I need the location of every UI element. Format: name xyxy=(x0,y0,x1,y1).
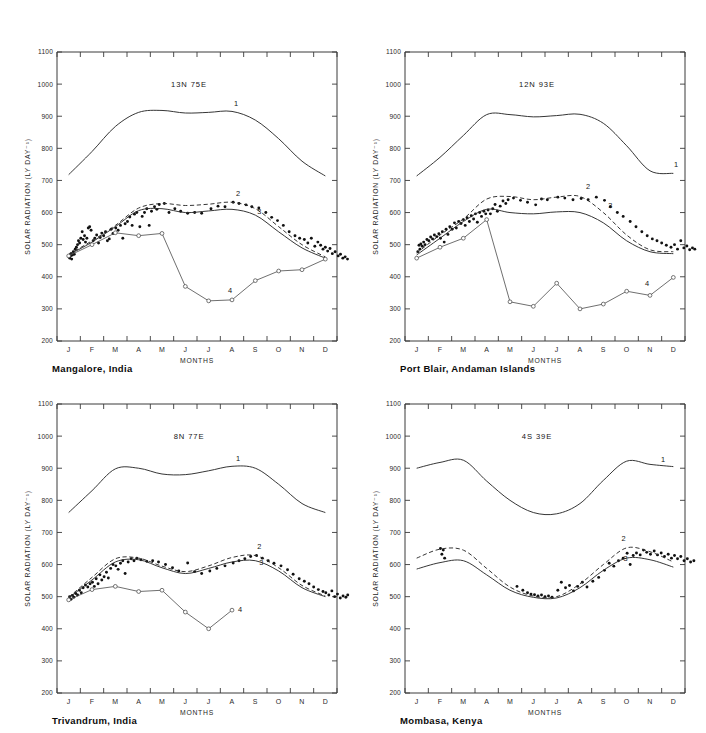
observation-point xyxy=(560,581,563,584)
curve-4-marker xyxy=(485,218,489,222)
curve-4-marker xyxy=(183,285,187,289)
chart-panel-mombasa: 20030040050060070080090010001100JFMAMJJA… xyxy=(348,352,700,733)
observation-point xyxy=(313,245,316,248)
curve-label-3: 3 xyxy=(259,558,263,567)
curve-4-marker xyxy=(230,608,234,612)
y-tick-label: 1000 xyxy=(38,433,54,440)
y-tick-label: 300 xyxy=(389,657,401,664)
observation-point xyxy=(286,568,289,571)
x-axis-title: MONTHS xyxy=(528,709,562,716)
observation-point xyxy=(148,224,151,227)
curve-label-3: 3 xyxy=(257,207,261,216)
observation-point xyxy=(344,596,347,599)
curve-label-3: 3 xyxy=(608,201,612,210)
observation-point xyxy=(494,203,497,206)
curve-4-marker xyxy=(137,234,141,238)
observation-point xyxy=(131,224,134,227)
observation-point xyxy=(533,593,536,596)
observation-point xyxy=(440,553,443,556)
observation-point xyxy=(83,234,86,237)
y-tick-label: 600 xyxy=(41,561,53,568)
observation-point xyxy=(100,232,103,235)
observation-point xyxy=(168,211,171,214)
x-axis-title: MONTHS xyxy=(180,709,214,716)
observation-point xyxy=(484,212,487,215)
observation-point xyxy=(141,215,144,218)
plot-frame xyxy=(57,404,337,693)
observation-point xyxy=(119,224,122,227)
curve-label-4: 4 xyxy=(238,605,242,614)
observation-point xyxy=(667,553,670,556)
curve-label-1: 1 xyxy=(674,160,678,169)
observation-point xyxy=(310,237,313,240)
y-tick-label: 600 xyxy=(389,561,401,568)
x-tick-label: J xyxy=(415,698,419,705)
curve-4-marker xyxy=(323,257,327,261)
x-tick-label: A xyxy=(230,698,235,705)
observation-point xyxy=(109,567,112,570)
y-tick-label: 500 xyxy=(389,241,401,248)
y-tick-label: 400 xyxy=(389,625,401,632)
observation-point xyxy=(472,218,475,221)
observation-point xyxy=(103,575,106,578)
curve-2 xyxy=(417,547,674,598)
observation-point xyxy=(316,241,319,244)
y-tick-label: 200 xyxy=(389,689,401,696)
curve-label-4: 4 xyxy=(645,279,649,288)
observation-point xyxy=(330,589,333,592)
observation-point xyxy=(292,573,295,576)
observation-point xyxy=(324,246,327,249)
curve-1 xyxy=(417,113,674,176)
x-tick-label: F xyxy=(438,698,443,705)
observation-point xyxy=(339,597,342,600)
observation-point xyxy=(489,212,492,215)
observation-point xyxy=(298,577,301,580)
observation-point xyxy=(164,563,167,566)
observation-point xyxy=(635,552,638,555)
y-tick-label: 400 xyxy=(41,273,53,280)
chart-svg-trivandrum: 20030040050060070080090010001100JFMAMJJA… xyxy=(0,352,352,733)
curve-label-3: 3 xyxy=(624,554,628,563)
y-tick-label: 800 xyxy=(41,145,53,152)
y-axis-title: SOLAR RADIATION (LY DAY⁻¹) xyxy=(372,138,380,255)
observation-point xyxy=(526,201,529,204)
curve-4 xyxy=(69,586,232,628)
curve-4-marker xyxy=(137,590,141,594)
y-axis-title: SOLAR RADIATION (LY DAY⁻¹) xyxy=(372,490,380,607)
x-tick-label: A xyxy=(578,698,583,705)
observation-point xyxy=(108,237,111,240)
panel-caption-trivandrum: Trivandrum, India xyxy=(52,715,137,726)
observation-point xyxy=(656,239,659,242)
observation-point xyxy=(157,561,160,564)
observation-point xyxy=(81,230,84,233)
panel-coordinates-title: 4S 39E xyxy=(522,432,552,441)
observation-point xyxy=(107,577,110,580)
observation-point xyxy=(603,199,606,202)
curve-4-marker xyxy=(160,588,164,592)
observation-point xyxy=(117,568,120,571)
observation-point xyxy=(682,246,685,249)
observation-point xyxy=(591,580,594,583)
x-tick-label: A xyxy=(136,698,141,705)
curve-3 xyxy=(69,208,326,258)
observation-point xyxy=(119,562,122,565)
observation-point xyxy=(200,572,203,575)
observation-point xyxy=(210,207,213,210)
observation-point xyxy=(629,220,632,223)
observation-point xyxy=(280,564,283,567)
observation-point xyxy=(308,582,311,585)
observation-point xyxy=(612,565,615,568)
curve-label-1: 1 xyxy=(661,455,665,464)
y-tick-label: 800 xyxy=(41,497,53,504)
observation-point xyxy=(342,595,345,598)
curve-label-2: 2 xyxy=(622,534,626,543)
observation-point xyxy=(303,238,306,241)
y-tick-label: 700 xyxy=(389,529,401,536)
curve-4-marker xyxy=(461,236,465,240)
x-tick-label: F xyxy=(90,698,95,705)
observation-point xyxy=(117,229,120,232)
observation-point xyxy=(249,555,252,558)
curve-4-marker xyxy=(277,269,281,273)
observation-point xyxy=(215,567,218,570)
panel-coordinates-title: 13N 75E xyxy=(171,80,207,89)
